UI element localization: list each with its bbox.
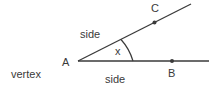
angle-arc bbox=[121, 40, 133, 62]
label-c: C bbox=[151, 3, 159, 14]
label-side-lower: side bbox=[105, 74, 125, 85]
point-c-dot bbox=[153, 21, 157, 25]
label-a: A bbox=[62, 57, 69, 68]
label-side-upper: side bbox=[80, 29, 100, 40]
label-angle-x: x bbox=[115, 46, 121, 57]
label-vertex: vertex bbox=[11, 69, 41, 80]
label-b: B bbox=[168, 68, 175, 79]
point-b-dot bbox=[170, 59, 174, 63]
